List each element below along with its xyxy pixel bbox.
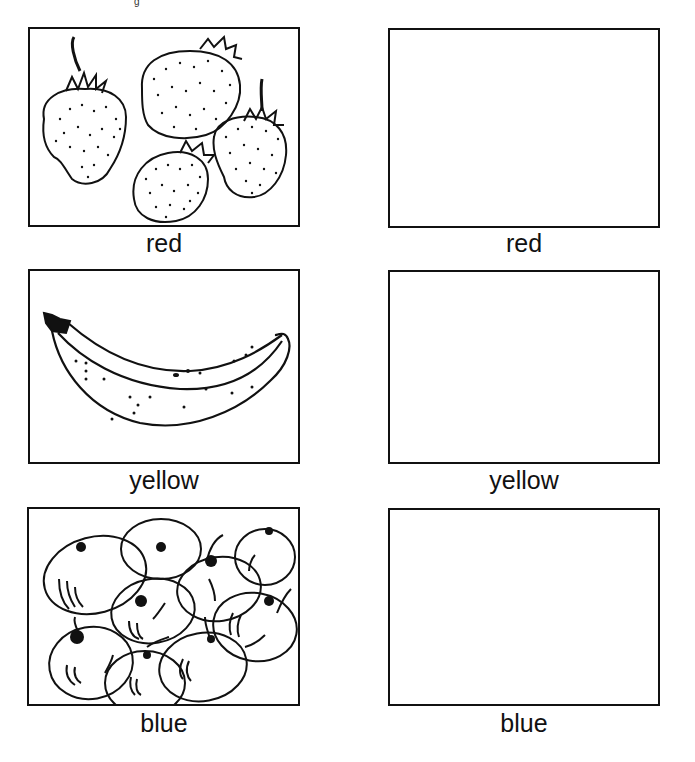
blueberries-drawing — [29, 509, 298, 704]
blue-coloring-label: blue — [388, 709, 660, 737]
cropped-text-fragment: g — [134, 0, 140, 7]
blueberries-picture-box — [27, 507, 300, 706]
yellow-coloring-label: yellow — [388, 466, 660, 494]
banana-picture-box — [28, 269, 300, 464]
yellow-coloring-box[interactable] — [388, 270, 660, 464]
red-coloring-label: red — [388, 229, 660, 257]
blue-coloring-box[interactable] — [388, 508, 660, 706]
banana-drawing — [30, 271, 298, 462]
strawberries-drawing — [30, 29, 298, 225]
strawberries-picture-box — [28, 27, 300, 227]
blueberries-color-label: blue — [28, 709, 300, 737]
red-coloring-box[interactable] — [388, 28, 660, 228]
strawberries-color-label: red — [28, 229, 300, 257]
banana-color-label: yellow — [28, 466, 300, 494]
